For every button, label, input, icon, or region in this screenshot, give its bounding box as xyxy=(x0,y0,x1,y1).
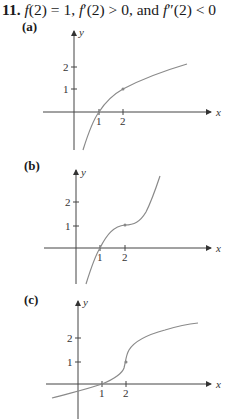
x-axis-label: x xyxy=(215,106,221,118)
xtick-2: 2 xyxy=(122,251,128,263)
ytick-2: 2 xyxy=(65,196,71,208)
xtick-1: 1 xyxy=(99,387,105,399)
point-2-1 xyxy=(124,224,127,227)
x-axis-label: x xyxy=(215,378,221,390)
point-2-1 xyxy=(122,88,125,91)
y-axis-label: y xyxy=(80,166,86,178)
graphs: x y 2 1 1 2 x y 2 1 1 2 x y xyxy=(0,0,235,419)
y-axis-label: y xyxy=(82,296,88,308)
ytick-1: 1 xyxy=(67,356,73,368)
graph-c: x y 2 1 1 2 xyxy=(46,296,221,419)
ytick-1: 1 xyxy=(63,83,69,95)
curve-b xyxy=(86,176,160,284)
ytick-1: 1 xyxy=(65,220,71,232)
xtick-1: 1 xyxy=(96,115,102,127)
y-axis-label: y xyxy=(78,26,84,38)
ytick-2: 2 xyxy=(63,61,69,73)
x-axis-label: x xyxy=(215,242,221,254)
ytick-2: 2 xyxy=(67,332,73,344)
xtick-2: 2 xyxy=(123,387,129,399)
graph-b: x y 2 1 1 2 xyxy=(44,166,221,284)
graph-a: x y 2 1 1 2 xyxy=(43,26,221,150)
point-2-1 xyxy=(125,361,128,364)
xtick-2: 2 xyxy=(120,115,126,127)
curve-a xyxy=(83,64,187,150)
